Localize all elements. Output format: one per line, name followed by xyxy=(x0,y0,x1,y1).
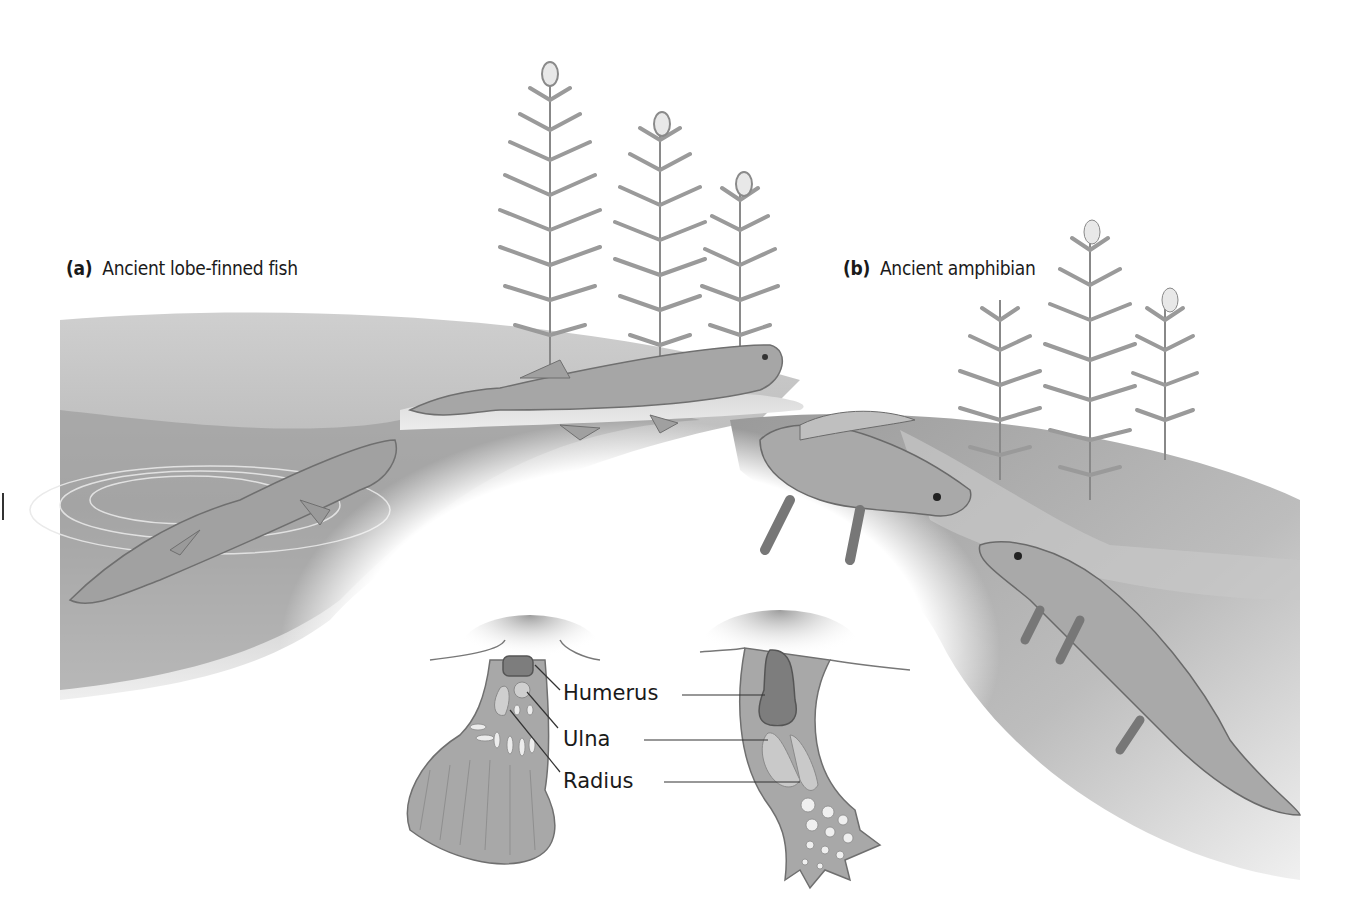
illustration xyxy=(0,0,1362,924)
label-humerus: Humerus xyxy=(563,681,658,705)
label-ulna: Ulna xyxy=(563,727,610,751)
evolution-diagram: (a)Ancient lobe-finned fish (b)Ancient a… xyxy=(0,0,1362,924)
label-radius: Radius xyxy=(563,769,633,793)
horsetail-plants-left xyxy=(500,62,778,370)
panel-b-letter: (b) xyxy=(843,257,870,279)
panel-b-caption: (b)Ancient amphibian xyxy=(843,257,1036,279)
panel-a-caption: (a)Ancient lobe-finned fish xyxy=(66,257,298,279)
panel-a-letter: (a) xyxy=(66,257,92,279)
panel-b-title: Ancient amphibian xyxy=(880,257,1036,279)
panel-a-title: Ancient lobe-finned fish xyxy=(102,257,297,279)
page-edge-mark xyxy=(2,493,4,520)
